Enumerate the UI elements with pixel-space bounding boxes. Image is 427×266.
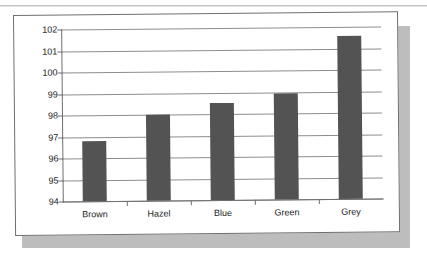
x-axis-tick <box>319 199 320 204</box>
x-axis-tick <box>191 200 192 205</box>
y-axis-tick-label: 97 <box>48 133 58 142</box>
x-axis-label: Brown <box>82 209 108 219</box>
bar <box>337 35 363 199</box>
y-axis-tick-label: 95 <box>49 176 59 185</box>
x-axis-label: Green <box>274 207 299 217</box>
bar <box>274 93 299 200</box>
y-axis-tick-label: 102 <box>42 26 57 35</box>
y-axis-labels: 949596979899100101102 <box>27 30 59 205</box>
y-axis-tick-label: 101 <box>42 47 57 56</box>
y-axis-tick-label: 94 <box>49 198 59 207</box>
scan-artifact-line-secondary <box>0 6 427 7</box>
bar <box>82 141 107 201</box>
x-axis-label: Hazel <box>147 208 170 218</box>
x-axis-label: Blue <box>214 208 232 218</box>
x-axis-category-labels: BrownHazelBlueGreenGrey <box>63 206 384 223</box>
x-axis-label: Grey <box>341 207 361 217</box>
bar <box>146 114 171 200</box>
chart-panel: 949596979899100101102 BrownHazelBlueGree… <box>13 11 400 236</box>
bar-series <box>61 26 383 201</box>
bar <box>210 103 235 200</box>
y-axis-tick-label: 98 <box>48 112 58 121</box>
x-axis-tick <box>127 201 128 206</box>
y-axis-tick-label: 96 <box>48 155 58 164</box>
y-axis-tick-label: 100 <box>42 69 57 78</box>
x-axis-tick <box>255 200 256 205</box>
y-axis-tick-label: 99 <box>48 90 58 99</box>
